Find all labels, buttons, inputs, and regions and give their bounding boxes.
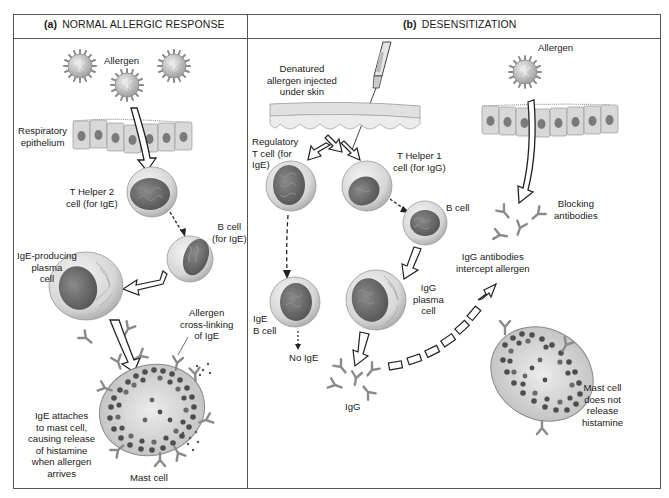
label-blocking-antibodies: Blockingantibodies xyxy=(554,198,598,221)
b-cell-ige xyxy=(167,235,214,282)
skin-layers xyxy=(270,102,420,129)
label-no-ige: No IgE xyxy=(289,352,318,364)
respiratory-epithelium-a xyxy=(73,119,192,153)
label-mast-cell-a: Mast cell xyxy=(130,472,168,484)
t-helper-1-cell xyxy=(342,161,392,211)
t-helper-2-cell xyxy=(127,167,177,217)
label-igg-plasma-cell: IgGplasmacell xyxy=(413,282,444,317)
label-th2-cell: T Helper 2cell (for IgE) xyxy=(66,186,118,209)
blocking-antibodies xyxy=(493,204,546,241)
ige-b-cell xyxy=(270,277,320,327)
label-ige-attaches: IgE attachesto mast cell,causing release… xyxy=(28,410,95,479)
label-denatured-allergen: Denaturedallergen injectedunder skin xyxy=(267,63,337,98)
igg-plasma-cell xyxy=(346,270,406,330)
b-cell-igg xyxy=(403,201,447,245)
label-b-cell-a: B cell(for IgE) xyxy=(212,221,247,244)
label-allergen-b: Allergen xyxy=(538,42,573,54)
label-allergen-crosslinking: Allergencross-linkingof IgE xyxy=(180,307,233,342)
label-respiratory-epithelium-a: Respiratoryepithelium xyxy=(18,125,67,148)
label-allergen-a: Allergen xyxy=(104,55,139,67)
mast-cell-a xyxy=(89,337,215,467)
respiratory-epithelium-b xyxy=(482,104,618,137)
igg-antibodies xyxy=(328,359,380,400)
label-mast-cell-b: Mast celldoes notreleasehistamine xyxy=(582,382,623,428)
label-igg: IgG xyxy=(345,401,360,413)
allergen-pollen-b xyxy=(509,56,541,88)
label-igg-intercept: IgG antibodiesintercept allergen xyxy=(456,251,530,274)
label-regulatory-t-cell: RegulatoryT cell (forIgE) xyxy=(252,136,298,171)
label-ige-b-cell: IgEB cell xyxy=(253,313,276,336)
label-th1-cell: T Helper 1cell (for IgG) xyxy=(393,150,446,173)
label-ige-plasma-cell: IgE-producingplasmacell xyxy=(17,250,77,285)
label-b-cell-b: B cell xyxy=(446,202,469,214)
syringe xyxy=(352,42,391,150)
